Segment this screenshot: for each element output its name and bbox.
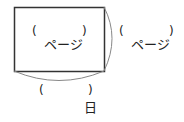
inner-unit-label: ページ [44, 38, 83, 52]
right-open-paren: ( [119, 24, 124, 38]
bottom-unit-label: 日 [84, 101, 97, 115]
right-unit-label: ページ [131, 38, 170, 52]
bottom-open-paren: ( [39, 83, 44, 97]
inner-open-paren: ( [32, 24, 37, 38]
right-close-paren: ) [169, 24, 174, 38]
bottom-brace-arc [14, 71, 104, 81]
bottom-close-paren: ) [88, 83, 93, 97]
inner-close-paren: ) [82, 24, 87, 38]
